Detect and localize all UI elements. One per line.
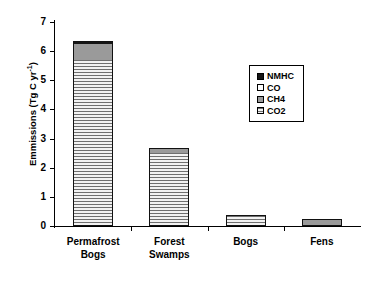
plot-area: 01234567 <box>55 22 360 226</box>
bar-segment-co2 <box>149 153 189 226</box>
bar-bogs <box>226 215 266 226</box>
y-axis-title-main: Emmissions (Tg C yr <box>27 72 38 167</box>
x-axis-tick <box>131 226 132 231</box>
y-axis-tick-label: 4 <box>40 103 46 114</box>
bar-fens <box>302 219 342 226</box>
legend-label-co: CO <box>267 83 281 93</box>
legend-item-nmhc: NMHC <box>257 71 294 82</box>
legend-item-co2: CO2 <box>257 105 294 116</box>
y-axis-tick-label: 7 <box>40 16 46 27</box>
y-axis-tick: 1 <box>50 197 55 198</box>
chart-legend: NMHCCOCH4CO2 <box>249 65 304 122</box>
bar-segment-ch4 <box>302 219 342 226</box>
y-axis-tick: 0 <box>50 226 55 227</box>
legend-swatch-co <box>257 84 264 91</box>
y-axis-tick: 6 <box>50 51 55 52</box>
bar-segment-co2 <box>73 60 113 226</box>
y-axis-tick: 4 <box>50 109 55 110</box>
legend-item-co: CO <box>257 82 294 93</box>
y-axis-tick-label: 5 <box>40 74 46 85</box>
legend-swatch-nmhc <box>257 73 264 80</box>
bar-forest-swamps <box>149 148 189 226</box>
y-axis-tick: 5 <box>50 80 55 81</box>
y-axis-tick: 3 <box>50 139 55 140</box>
legend-swatch-ch4 <box>257 96 264 103</box>
x-axis-category-label: Forest Swamps <box>131 236 207 261</box>
y-axis-tick-label: 0 <box>40 220 46 231</box>
bar-segment-co2 <box>226 216 266 226</box>
y-axis-tick-label: 3 <box>40 133 46 144</box>
bar-segment-ch4 <box>73 44 113 61</box>
y-axis-title-tail: ) <box>27 62 38 65</box>
legend-label-ch4: CH4 <box>267 94 285 104</box>
legend-label-co2: CO2 <box>267 106 286 116</box>
legend-swatch-co2 <box>257 107 264 114</box>
x-axis-category-label: Bogs <box>208 236 284 249</box>
y-axis-tick-label: 2 <box>40 162 46 173</box>
chart-figure: Emmissions (Tg C yr-1) 01234567 NMHCCOCH… <box>0 0 381 284</box>
y-axis-title: Emmissions (Tg C yr-1) <box>26 14 38 214</box>
y-axis-tick: 2 <box>50 168 55 169</box>
bar-permafrost-bogs <box>73 41 113 226</box>
x-axis-tick <box>208 226 209 231</box>
y-axis-tick-label: 1 <box>40 191 46 202</box>
y-axis-tick: 7 <box>50 22 55 23</box>
y-axis-tick-label: 6 <box>40 45 46 56</box>
legend-item-ch4: CH4 <box>257 94 294 105</box>
y-axis-title-exponent: -1 <box>26 65 33 71</box>
legend-label-nmhc: NMHC <box>267 71 294 81</box>
x-axis-tick <box>284 226 285 231</box>
x-axis-category-label: Permafrost Bogs <box>55 236 131 261</box>
x-axis-category-label: Fens <box>284 236 360 249</box>
